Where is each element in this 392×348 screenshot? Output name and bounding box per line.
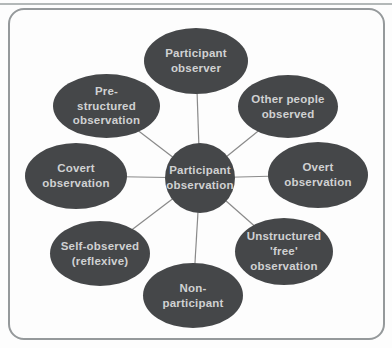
node-unstructured-free-observation: Unstructured 'free' observation	[235, 218, 333, 285]
node-overt-observation: Overt observation	[268, 142, 368, 208]
diagram-page: { "diagram": { "title": "Participant obs…	[0, 0, 392, 348]
node-non-participant: Non- participant	[143, 263, 243, 328]
node-participant-observer: Participant observer	[144, 28, 248, 94]
scan-edge-line	[0, 3, 392, 5]
node-other-people-observed: Other people observed	[238, 75, 338, 138]
node-pre-structured-observation: Pre- structured observation	[53, 74, 160, 138]
node-self-observed-reflexive: Self-observed (reflexive)	[50, 221, 150, 286]
node-covert-observation: Covert observation	[25, 143, 127, 209]
node-participant-observation-center: Participant observation	[165, 143, 235, 213]
